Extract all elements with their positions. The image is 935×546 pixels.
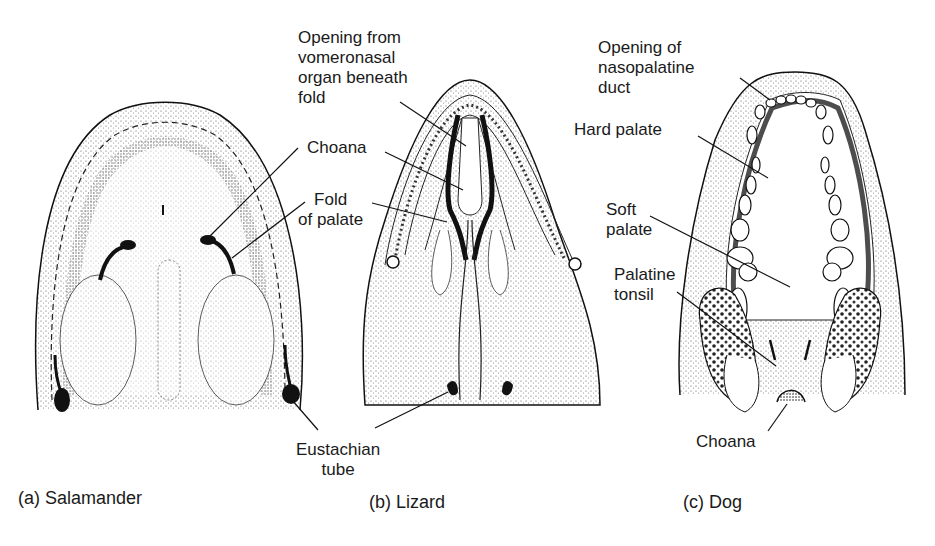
label-fold-of-palate: Fold of palate	[298, 190, 363, 230]
label-soft-palate: Soft palate	[606, 200, 652, 240]
lizard-palate-drawing	[363, 80, 600, 405]
caption-dog: (c) Dog	[683, 492, 742, 513]
label-eustachian-tube: Eustachian tube	[296, 440, 380, 480]
label-vomeronasal-opening: Opening from vomeronasal organ beneath f…	[298, 28, 408, 108]
label-palatine-tonsil: Palatine tonsil	[614, 265, 675, 305]
label-choana: Choana	[307, 138, 367, 158]
anatomy-illustration	[0, 0, 935, 546]
caption-lizard: (b) Lizard	[369, 492, 445, 513]
salamander-palate-drawing	[36, 102, 303, 412]
caption-salamander: (a) Salamander	[18, 488, 142, 509]
dog-palate-drawing	[679, 72, 905, 412]
label-dog-choana: Choana	[696, 432, 756, 452]
label-hard-palate: Hard palate	[574, 120, 662, 140]
label-nasopalatine-duct: Opening of nasopalatine duct	[598, 38, 694, 98]
